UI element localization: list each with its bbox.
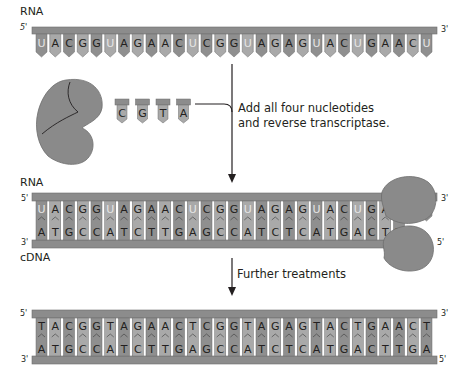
svg-text:A: A (148, 320, 156, 333)
svg-text:A: A (120, 320, 128, 333)
svg-text:A: A (120, 203, 128, 216)
svg-text:G: G (78, 203, 87, 216)
double-stranded-cdna: TAATCGGCGCTAATGCATATCGTACGGCGCTAATGCATGC… (32, 310, 437, 364)
svg-text:C: C (340, 203, 348, 216)
svg-text:G: G (271, 37, 280, 50)
svg-text:T: T (257, 343, 265, 356)
svg-text:U: U (312, 203, 320, 216)
svg-text:T: T (188, 320, 196, 333)
svg-text:T: T (147, 226, 155, 239)
svg-text:A: A (381, 320, 389, 333)
svg-text:U: U (312, 37, 320, 50)
svg-text:A: A (106, 226, 114, 239)
svg-text:A: A (161, 320, 169, 333)
svg-text:T: T (395, 343, 403, 356)
svg-text:T: T (257, 226, 265, 239)
svg-text:T: T (381, 343, 389, 356)
svg-text:U: U (189, 37, 197, 50)
svg-text:A: A (38, 343, 46, 356)
svg-text:A: A (395, 320, 403, 333)
svg-text:A: A (258, 203, 266, 216)
svg-text:C: C (203, 320, 211, 333)
svg-text:C: C (118, 107, 126, 120)
svg-text:G: G (298, 203, 307, 216)
svg-text:C: C (271, 343, 279, 356)
svg-text:A: A (180, 107, 188, 120)
svg-text:A: A (120, 37, 128, 50)
svg-text:A: A (285, 203, 293, 216)
svg-text:U: U (354, 37, 362, 50)
svg-text:A: A (51, 37, 59, 50)
svg-text:A: A (38, 226, 46, 239)
svg-text:A: A (148, 37, 156, 50)
arrow-step2 (228, 258, 236, 296)
reverse-transcriptase-enzyme-icon (36, 79, 102, 164)
svg-text:A: A (326, 203, 334, 216)
svg-text:G: G (298, 37, 307, 50)
svg-text:A: A (148, 203, 156, 216)
svg-text:C: C (175, 203, 183, 216)
svg-text:T: T (106, 320, 114, 333)
svg-text:G: G (175, 226, 184, 239)
svg-text:A: A (285, 320, 293, 333)
svg-text:C: C (134, 343, 142, 356)
svg-text:C: C (368, 226, 376, 239)
svg-text:A: A (244, 343, 252, 356)
free-nucleotides: CGTA (115, 99, 191, 123)
svg-text:G: G (92, 203, 101, 216)
svg-text:U: U (244, 37, 252, 50)
svg-text:A: A (326, 37, 334, 50)
svg-text:A: A (354, 343, 362, 356)
arrow-step1 (195, 64, 236, 183)
svg-text:C: C (175, 320, 183, 333)
svg-text:A: A (395, 37, 403, 50)
svg-text:U: U (189, 203, 197, 216)
rna-single-strand: UACGGUAGAACUCGGUAGAGUACUGAACU (32, 27, 437, 57)
svg-text:A: A (106, 343, 114, 356)
svg-text:A: A (161, 37, 169, 50)
svg-text:U: U (37, 37, 45, 50)
svg-text:C: C (409, 37, 417, 50)
svg-text:G: G (133, 37, 142, 50)
svg-text:G: G (340, 226, 349, 239)
svg-text:T: T (285, 226, 293, 239)
svg-text:T: T (312, 320, 320, 333)
svg-text:A: A (189, 343, 197, 356)
svg-text:U: U (422, 37, 430, 50)
svg-text:C: C (203, 37, 211, 50)
svg-text:T: T (51, 343, 59, 356)
svg-text:T: T (147, 343, 155, 356)
svg-text:G: G (271, 320, 280, 333)
svg-text:A: A (326, 320, 334, 333)
svg-text:G: G (216, 320, 225, 333)
svg-text:C: C (93, 343, 101, 356)
svg-text:G: G (133, 203, 142, 216)
svg-text:A: A (313, 226, 321, 239)
svg-text:U: U (106, 37, 114, 50)
svg-text:A: A (51, 203, 59, 216)
svg-text:C: C (79, 343, 87, 356)
svg-text:A: A (423, 343, 431, 356)
svg-text:T: T (51, 226, 59, 239)
svg-text:G: G (202, 343, 211, 356)
svg-text:A: A (258, 320, 266, 333)
svg-text:T: T (422, 320, 430, 333)
svg-text:T: T (37, 320, 45, 333)
svg-text:G: G (367, 203, 376, 216)
svg-text:C: C (93, 226, 101, 239)
svg-text:G: G (367, 320, 376, 333)
svg-text:C: C (65, 37, 73, 50)
svg-text:A: A (381, 37, 389, 50)
svg-text:G: G (175, 343, 184, 356)
svg-text:T: T (161, 343, 169, 356)
svg-text:G: G (65, 343, 74, 356)
svg-text:C: C (230, 226, 238, 239)
svg-text:G: G (298, 320, 307, 333)
svg-text:U: U (37, 203, 45, 216)
svg-text:C: C (340, 320, 348, 333)
svg-text:C: C (134, 226, 142, 239)
svg-text:G: G (133, 320, 142, 333)
svg-text:C: C (203, 203, 211, 216)
svg-text:U: U (244, 203, 252, 216)
svg-text:T: T (326, 343, 334, 356)
